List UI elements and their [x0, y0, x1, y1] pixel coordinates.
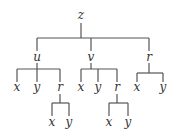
- node-v-y: y: [94, 80, 102, 94]
- node-r: r: [146, 50, 153, 64]
- node-r-x: x: [134, 80, 141, 94]
- node-r-y: y: [159, 80, 167, 94]
- node-z: z: [77, 8, 85, 22]
- node-u-x: x: [14, 80, 21, 94]
- node-v-r-y: y: [124, 115, 132, 129]
- node-u-r: r: [57, 80, 64, 94]
- node-u-r-x: x: [49, 115, 56, 129]
- node-v-r: r: [114, 80, 121, 94]
- node-v-r-x: x: [106, 115, 113, 129]
- tree-diagram: z u v r x y r x y x y r x y x y: [0, 0, 178, 136]
- node-u: u: [33, 50, 41, 64]
- node-u-r-y: y: [65, 115, 73, 129]
- node-u-y: y: [33, 80, 41, 94]
- node-v: v: [88, 50, 95, 64]
- node-v-x: x: [78, 80, 85, 94]
